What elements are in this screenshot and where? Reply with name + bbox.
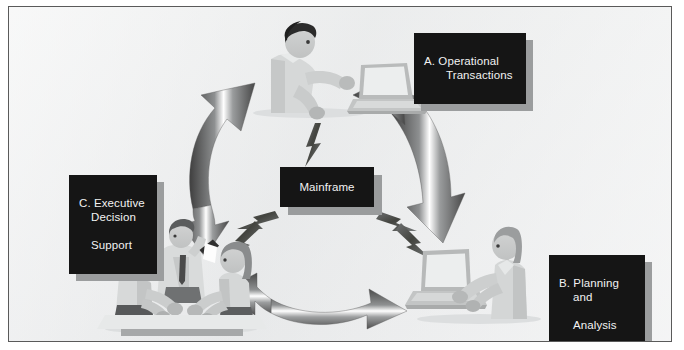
label-executive-decision-support[interactable]: C. Executive Decision Support bbox=[69, 175, 157, 274]
label-operational-transactions[interactable]: A. Operational Transactions bbox=[414, 33, 526, 104]
label-c-line1: C. Executive bbox=[79, 197, 145, 209]
label-a-line1: A. Operational bbox=[424, 55, 499, 67]
label-b-line2: and bbox=[559, 290, 635, 304]
meeting-table-icon bbox=[97, 315, 267, 336]
diagram-frame: A. Operational Transactions B. Planning … bbox=[8, 6, 672, 342]
label-mainframe[interactable]: Mainframe bbox=[280, 167, 374, 207]
bolt-mainframe-to-a-icon bbox=[305, 123, 321, 167]
label-a-line2: Transactions bbox=[424, 68, 516, 82]
label-b-line3: Analysis bbox=[559, 318, 635, 332]
label-c-line3: Support bbox=[79, 238, 147, 252]
label-b-line1: B. Planning bbox=[559, 277, 619, 289]
person-at-desktop-figure bbox=[405, 227, 541, 324]
label-planning-and-analysis[interactable]: B. Planning and Analysis bbox=[549, 255, 645, 342]
person-at-laptop-figure bbox=[253, 21, 427, 120]
label-c-line2: Decision bbox=[79, 210, 147, 224]
label-mainframe-text: Mainframe bbox=[299, 180, 354, 194]
